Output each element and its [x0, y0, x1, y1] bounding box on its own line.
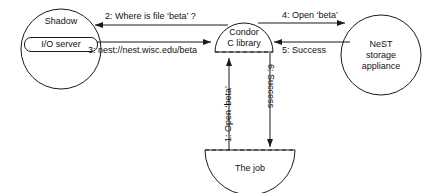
diagram-canvas: Shadow I/O server Condor C library NeST … [0, 0, 423, 193]
edge-6-label: 6: Success [266, 64, 277, 108]
diagram-vector-layer [0, 0, 423, 193]
edge-4-label: 4: Open ‘beta’ [282, 10, 338, 21]
node-shadow-label: Shadow [31, 16, 91, 27]
node-nest-label-line3: appliance [351, 61, 411, 72]
node-nest-label-line1: NeST [351, 39, 411, 50]
edge-2-label: 2: Where is file ‘beta’ ? [105, 11, 196, 22]
node-nest-label-line2: storage [351, 50, 411, 61]
node-condor-label-line1: Condor [214, 27, 274, 38]
edge-1-label: 1: Open ‘beta’ [223, 86, 234, 142]
edge-5-label: 5: Success [282, 45, 326, 56]
node-shadow-io-server-box: I/O server [24, 37, 98, 52]
node-condor-label-line2: C library [214, 38, 274, 49]
edge-3-label: 3: nest://nest.wisc.edu/beta [88, 45, 197, 56]
node-job-label: The job [220, 163, 280, 174]
